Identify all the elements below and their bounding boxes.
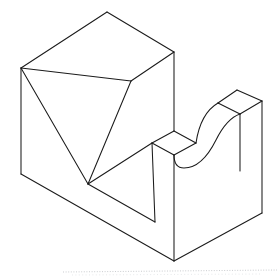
edge-rib-right-top (174, 131, 196, 143)
edge-saddle-curve-outer (196, 103, 218, 143)
drawing-canvas: Isometric pictorial of a V-block with cu… (0, 0, 277, 279)
isometric-part-drawing (0, 0, 277, 279)
face-base-front-left (21, 68, 174, 261)
scan-line-primary (63, 270, 277, 272)
solid-faces (21, 12, 262, 261)
scan-artifact-lines (63, 270, 277, 275)
scan-line-secondary (72, 274, 262, 275)
